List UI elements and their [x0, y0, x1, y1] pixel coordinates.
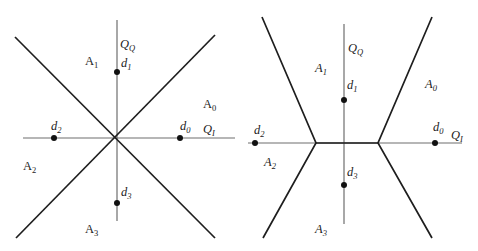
right-boundary-right	[378, 17, 432, 238]
left-label-d2: d2	[51, 119, 62, 135]
right-label-d1: d1	[347, 78, 358, 94]
right-region-a3: A3	[314, 222, 327, 238]
right-label-d2: d2	[254, 123, 265, 139]
left-region-a2: A2	[23, 159, 36, 175]
left-label-d1: d1	[121, 56, 132, 72]
right-point-d1	[341, 97, 347, 103]
left-label-d3: d3	[121, 185, 132, 201]
right-qq-label: QQ	[348, 41, 363, 57]
left-point-d2	[51, 135, 57, 141]
left-point-d1	[114, 69, 120, 75]
decision-region-figure: QQ QI d1 d2 d0 d3 A1 A0 A2 A3 QQ QI d1 d…	[0, 0, 478, 251]
left-point-d0	[177, 135, 183, 141]
right-qi-label: QI	[451, 128, 464, 144]
left-region-a3: A3	[85, 222, 98, 238]
right-region-a0: A0	[424, 77, 438, 93]
left-point-d3	[114, 200, 120, 206]
right-boundary-left	[262, 17, 316, 238]
left-qi-label: QI	[203, 122, 216, 138]
right-point-d0	[432, 140, 438, 146]
left-region-a1: A1	[85, 54, 98, 70]
right-diagram: QQ QI d1 d2 d0 d3 A1 A0 A2 A3	[248, 17, 464, 238]
right-region-a2: A2	[263, 155, 277, 171]
left-region-a0: A0	[203, 97, 216, 113]
right-point-d2	[252, 140, 258, 146]
left-qq-label: QQ	[120, 37, 135, 53]
right-label-d0: d0	[433, 120, 444, 136]
left-label-d0: d0	[180, 119, 191, 135]
right-point-d3	[341, 182, 347, 188]
left-diagram: QQ QI d1 d2 d0 d3 A1 A0 A2 A3	[15, 20, 235, 238]
right-label-d3: d3	[347, 165, 358, 181]
right-region-a1: A1	[314, 61, 327, 77]
